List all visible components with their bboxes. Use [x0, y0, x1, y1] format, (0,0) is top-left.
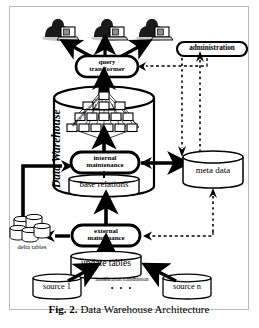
- meta-data-label: meta data: [183, 166, 243, 175]
- modification-transmission-label: modification transmission: [74, 277, 170, 282]
- data-warehouse-label: Data Warehouse: [50, 110, 62, 189]
- source-last-label: source n: [163, 283, 211, 292]
- delta-tables-label: delta tables: [2, 244, 62, 251]
- base-relations-label: base relations: [69, 180, 139, 189]
- source-ellipsis: • • •: [74, 285, 170, 293]
- internal-maintenance-label-line2: maintenance: [71, 162, 139, 169]
- administration-label: administration: [177, 45, 247, 52]
- figure-caption-prefix: Fig. 2.: [49, 303, 78, 315]
- external-maintenance-label-line2: maintenance: [72, 235, 140, 242]
- query-transformer-label-line2: transformer: [76, 66, 138, 73]
- figure-caption: Fig. 2. Data Warehouse Architecture: [9, 303, 249, 315]
- update-tables-label: update tables: [71, 259, 141, 269]
- figure-caption-text: Data Warehouse Architecture: [80, 303, 209, 315]
- figure-data-warehouse-architecture: administration query transformer Data Wa…: [0, 0, 259, 328]
